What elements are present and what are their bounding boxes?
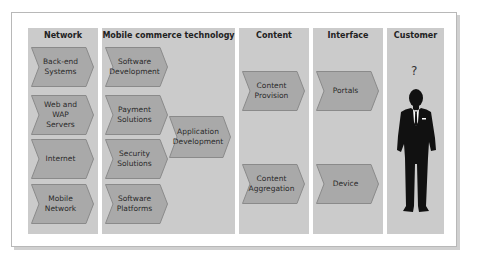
process-chevron: Payment Solutions: [105, 95, 168, 135]
process-chevron: Security Solutions: [105, 139, 168, 179]
chevron-label: Payment Solutions: [111, 95, 158, 135]
process-chevron-application-development: Application Development: [169, 116, 231, 158]
chevron-label: Application Development: [175, 116, 221, 158]
column-title: Interface: [313, 31, 383, 40]
customer-figure-icon: [393, 88, 439, 216]
column-title: Network: [28, 31, 98, 40]
chevron-label: Portals: [322, 71, 369, 111]
process-chevron: Portals: [316, 71, 379, 111]
chevron-label: Web and WAP Servers: [37, 95, 84, 135]
chevron-label: Back-end Systems: [37, 47, 84, 87]
process-chevron: Software Development: [105, 47, 168, 87]
chevron-label: Security Solutions: [111, 139, 158, 179]
chevron-label: Device: [322, 164, 369, 204]
process-chevron: Content Aggregation: [242, 164, 305, 204]
column-title: Content: [239, 31, 309, 40]
process-chevron: Back-end Systems: [31, 47, 94, 87]
chevron-label: Mobile Network: [37, 184, 84, 224]
process-chevron: Device: [316, 164, 379, 204]
chevron-label: Content Provision: [248, 71, 295, 111]
process-chevron: Content Provision: [242, 71, 305, 111]
process-chevron: Software Platforms: [105, 184, 168, 224]
column-title: Mobile commerce technology: [102, 31, 235, 40]
chevron-label: Content Aggregation: [248, 164, 295, 204]
question-mark: ?: [411, 64, 417, 78]
chevron-label: Software Platforms: [111, 184, 158, 224]
chevron-label: Internet: [37, 139, 84, 179]
column-title: Customer: [387, 31, 444, 40]
process-chevron: Internet: [31, 139, 94, 179]
chevron-label: Software Development: [111, 47, 158, 87]
process-chevron: Mobile Network: [31, 184, 94, 224]
process-chevron: Web and WAP Servers: [31, 95, 94, 135]
